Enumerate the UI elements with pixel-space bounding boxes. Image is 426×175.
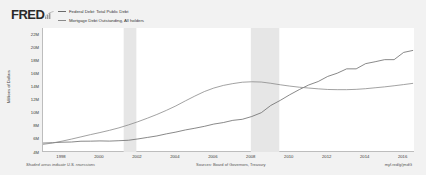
chart-header: FRED Federal Debt: Total Public Debt Mor… (0, 0, 426, 26)
recession-band (124, 28, 137, 152)
y-axis-ticks: 22M20M18M16M14M12M10M8M6M4M (0, 28, 39, 152)
x-tick-label: 2016 (398, 154, 407, 160)
line-swatch-icon (58, 20, 66, 21)
y-tick-label: 14M (31, 84, 39, 89)
fred-chart-screenshot: FRED Federal Debt: Total Public Debt Mor… (0, 0, 426, 175)
x-tick-label: 2002 (132, 154, 141, 160)
legend-item-mortgage-debt[interactable]: Mortgage Debt Outstanding, All holders (58, 17, 144, 24)
fred-chart-mark-icon (45, 11, 54, 19)
sources-note: Sources: Board of Governors, Treasury (196, 162, 266, 167)
fred-logo[interactable]: FRED (11, 8, 44, 21)
y-tick-label: 10M (31, 110, 39, 115)
plot-area (42, 28, 414, 152)
short-url[interactable]: myf.red/g/jmdG (385, 162, 412, 167)
y-tick-label: 20M (31, 45, 39, 50)
y-tick-label: 4M (33, 150, 39, 155)
x-tick-label: 2014 (360, 154, 369, 160)
x-tick-label: 2004 (170, 154, 179, 160)
chart-footer: Shaded areas indicate U.S. recessions So… (0, 162, 426, 175)
x-tick-label: 2012 (322, 154, 331, 160)
legend-item-federal-debt[interactable]: Federal Debt: Total Public Debt (58, 8, 144, 15)
y-tick-label: 22M (31, 32, 39, 37)
recession-band (251, 28, 279, 152)
series-line-mortgage-debt (43, 82, 413, 145)
legend-label-federal-debt: Federal Debt: Total Public Debt (69, 9, 128, 14)
x-tick-label: 2010 (284, 154, 293, 160)
y-tick-label: 6M (33, 136, 39, 141)
x-tick-label: 2000 (94, 154, 103, 160)
recession-note: Shaded areas indicate U.S. recessions (26, 162, 95, 167)
y-tick-label: 12M (31, 97, 39, 102)
legend-label-mortgage-debt: Mortgage Debt Outstanding, All holders (69, 18, 144, 23)
chart-canvas (43, 28, 415, 152)
plot-wrapper: Millions of Dollars 22M20M18M16M14M12M10… (0, 26, 426, 175)
x-tick-label: 1998 (56, 154, 65, 160)
y-tick-label: 16M (31, 71, 39, 76)
x-axis-ticks: 1998200020022004200620082010201220142016 (42, 154, 414, 162)
chart-legend: Federal Debt: Total Public Debt Mortgage… (58, 8, 144, 26)
line-swatch-icon (58, 11, 66, 12)
y-tick-label: 8M (33, 123, 39, 128)
x-tick-label: 2006 (208, 154, 217, 160)
y-tick-label: 18M (31, 58, 39, 63)
series-line-federal-debt (43, 50, 413, 143)
x-tick-label: 2008 (246, 154, 255, 160)
